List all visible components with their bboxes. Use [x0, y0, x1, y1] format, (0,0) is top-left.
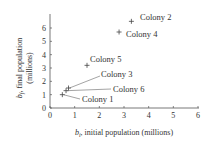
- point-label: Colony 6: [113, 84, 144, 94]
- point-label: Colony 5: [90, 54, 121, 64]
- point-label: Colony 2: [140, 12, 171, 22]
- x-tick-label: 0: [48, 111, 52, 120]
- data-point-marker: [117, 30, 122, 35]
- y-tick-label: 1: [42, 91, 46, 100]
- y-tick-label: 0: [42, 104, 46, 113]
- x-tick-label: 2: [97, 111, 101, 120]
- leader-line: [67, 89, 111, 91]
- point-label: Colony 3: [101, 69, 132, 79]
- leader-line: [70, 76, 101, 88]
- x-tick-label: 1: [73, 111, 77, 120]
- data-point-marker: [129, 19, 134, 24]
- y-tick-label: 2: [42, 77, 46, 86]
- point-label: Colony 1: [82, 94, 113, 104]
- y-tick-label: 6: [42, 24, 46, 33]
- x-tick-label: 5: [171, 111, 175, 120]
- x-tick-label: 3: [122, 111, 126, 120]
- x-axis-label: bi, initial population (millions): [75, 128, 173, 138]
- y-axis-label: bf, final population: [15, 38, 25, 99]
- data-point-marker: [85, 63, 90, 68]
- x-tick-label: 4: [147, 111, 151, 120]
- x-tick-label: 6: [196, 111, 200, 120]
- y-tick-label: 3: [42, 64, 46, 73]
- point-label: Colony 4: [126, 29, 158, 39]
- scatter-chart: 01234560123456bi, initial population (mi…: [0, 0, 212, 147]
- y-axis-label-units: (millions): [25, 52, 34, 84]
- y-tick-label: 4: [42, 51, 46, 60]
- y-tick-label: 5: [42, 37, 46, 46]
- leader-line: [63, 95, 80, 99]
